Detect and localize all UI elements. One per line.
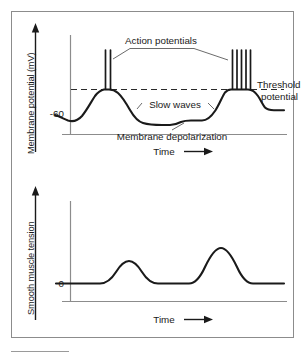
- panel-membrane-potential: Membrane potential (mV) -60: [12, 12, 295, 175]
- y-axis-arrow-top: [32, 23, 39, 152]
- panel-smooth-muscle-tension: Smooth muscle tension 0 Time: [12, 175, 295, 339]
- smooth-muscle-tension-plot: 0 Time: [12, 175, 295, 339]
- smooth-muscle-tension-trace: [56, 248, 284, 284]
- annotation-threshold-potential-line1: Threshold: [257, 79, 301, 90]
- x-axis-label-time-top: Time: [153, 146, 175, 157]
- annotation-membrane-depolarization: Membrane depolarization: [117, 131, 228, 142]
- action-potentials-leader-lines: [113, 49, 228, 61]
- action-potential-burst-1: [106, 50, 111, 89]
- annotation-action-potentials: Action potentials: [125, 35, 197, 46]
- x-axis-arrow-top: [184, 148, 213, 155]
- footer-rule: [11, 351, 69, 352]
- membrane-potential-plot: -60: [12, 12, 295, 175]
- annotation-slow-waves: Slow waves: [149, 99, 201, 110]
- x-axis-label-time-bottom: Time: [153, 314, 175, 325]
- y-axis-arrow-bottom: [32, 186, 39, 320]
- annotation-threshold-potential-line2: potential: [261, 91, 298, 102]
- figure-frame: Membrane potential (mV) -60: [11, 11, 294, 338]
- x-axis-arrow-bottom: [184, 316, 213, 323]
- figure-container: Membrane potential (mV) -60: [0, 0, 305, 361]
- action-potential-burst-2: [233, 50, 251, 89]
